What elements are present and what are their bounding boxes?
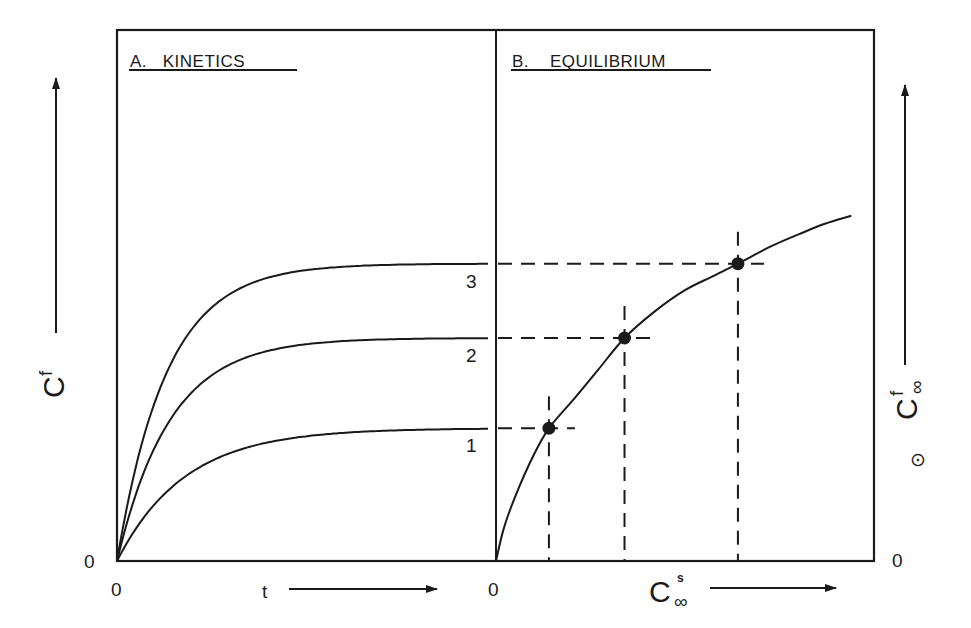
y-axis-label-left-sup: f <box>35 370 56 376</box>
kinetics-curve-3 <box>117 264 488 561</box>
x-axis-label-a: t <box>262 581 268 602</box>
x-axis-label-b-base: C <box>649 575 671 608</box>
y-axis-label-right-sub: ∞ <box>906 380 927 394</box>
figure: A. KINETICS B. EQUILIBRIUM 123 C f 0 0 t… <box>0 0 971 628</box>
kinetics-curve-1 <box>117 429 488 561</box>
panel-a-title: A. KINETICS <box>130 52 245 71</box>
y-origin-label-a: 0 <box>84 551 95 572</box>
y-axis-label-right: C f ∞ <box>886 380 927 420</box>
y-axis-symbol-right: ⊙ <box>910 449 926 470</box>
panel-b <box>496 216 851 561</box>
panel-a: 123 <box>117 264 488 561</box>
equilibrium-point-1 <box>542 422 555 435</box>
kinetics-curve-label-2: 2 <box>466 345 477 366</box>
kinetics-curve-label-3: 3 <box>466 271 477 292</box>
equilibrium-point-3 <box>731 257 744 270</box>
kinetics-curve-label-1: 1 <box>466 435 477 456</box>
y-axis-label-right-sup: f <box>886 390 907 396</box>
y-axis-label-right-base: C <box>890 398 923 420</box>
kinetics-curve-2 <box>117 338 488 561</box>
y-axis-label-left: C f <box>35 370 70 398</box>
x-axis-label-b-sup: s <box>677 571 684 585</box>
x-axis-label-b-sub: ∞ <box>674 591 688 612</box>
equilibrium-point-2 <box>618 331 631 344</box>
panel-b-title: B. EQUILIBRIUM <box>512 52 666 71</box>
x-origin-label-b: 0 <box>488 579 499 600</box>
y-axis-label-left-base: C <box>37 376 70 398</box>
x-origin-label-a: 0 <box>111 579 122 600</box>
equilibrium-curve <box>496 216 851 561</box>
y-origin-label-b: 0 <box>892 550 903 571</box>
